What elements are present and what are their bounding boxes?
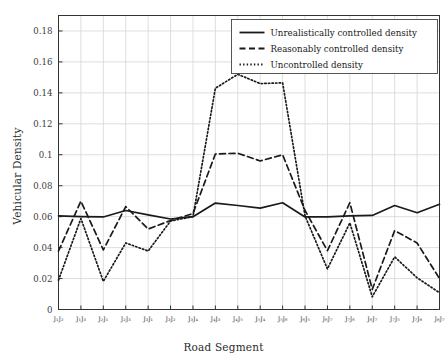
x-tick-label: J₅J₆ (277, 315, 288, 323)
series-line (59, 153, 440, 289)
x-tick-label: J₃J₂ (165, 315, 176, 323)
x-tick-label: J₁J₂ (53, 315, 64, 323)
x-tick-label: J₃J₁ (142, 315, 153, 323)
vehicular-density-chart: Vehicular Density Road Segment 00.020.04… (0, 0, 447, 364)
legend-label: Unrealistically controlled density (271, 28, 418, 38)
x-tick-label: J₄J₅ (232, 315, 243, 323)
x-tick-label: J₇J₆ (344, 315, 355, 323)
y-tick-label: 0.08 (33, 181, 52, 191)
y-tick-label: 0.18 (33, 26, 52, 36)
y-tick-label: 0.12 (33, 119, 52, 129)
y-tick-label: 0.04 (33, 243, 53, 253)
y-axis-title: Vehicular Density (11, 101, 23, 251)
x-tick-label: J₂J₁ (97, 315, 108, 323)
legend-label: Reasonably controlled density (271, 44, 404, 54)
x-tick-label: J₇J₅ (389, 315, 400, 323)
x-axis-ticks: J₁J₂J₁J₃J₂J₁J₂J₃J₃J₁J₃J₂J₃J₄J₄J₃J₄J₅J₅J₄… (53, 306, 445, 323)
x-tick-label: J₄J₃ (209, 315, 220, 323)
x-tick-label: J₆J₅ (299, 315, 310, 323)
x-tick-label: J₃J₄ (187, 315, 198, 323)
y-tick-label: 0.16 (33, 57, 52, 67)
chart-legend: Unrealistically controlled densityReason… (232, 20, 438, 74)
x-tick-label: J₈J₇ (434, 315, 445, 323)
y-tick-label: 0.06 (33, 212, 52, 222)
y-tick-label: 0 (47, 305, 52, 315)
y-tick-label: 0.02 (33, 274, 52, 284)
x-tick-label: J₆J₇ (366, 315, 377, 323)
x-tick-label: J₅J₄ (254, 315, 265, 323)
x-tick-label: J₂J₃ (120, 315, 131, 323)
x-tick-label: J₆J₇ (321, 315, 332, 323)
x-axis-title: Road Segment (0, 341, 447, 353)
x-tick-label: J₇J₈ (411, 315, 422, 323)
y-tick-label: 0.1 (39, 150, 53, 160)
legend-label: Uncontrolled density (271, 60, 364, 70)
plot-area: 00.020.040.060.080.10.120.140.160.18 J₁J… (0, 0, 447, 364)
x-tick-label: J₁J₃ (75, 315, 86, 323)
y-tick-label: 0.14 (33, 88, 53, 98)
